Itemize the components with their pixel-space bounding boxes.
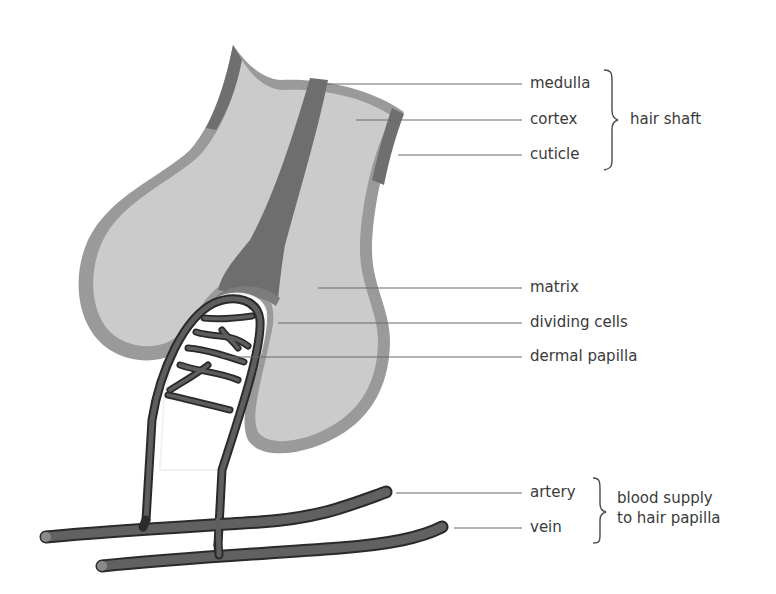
label-medulla: medulla <box>530 74 590 92</box>
blood-supply-brace <box>593 478 606 543</box>
label-blood-supply-line2: to hair papilla <box>617 509 721 527</box>
hair-shaft-brace <box>604 70 618 170</box>
label-vein: vein <box>530 518 562 536</box>
label-dermal-papilla: dermal papilla <box>530 347 637 365</box>
label-cuticle: cuticle <box>530 145 579 163</box>
blood-vessels <box>41 492 442 571</box>
label-dividing-cells: dividing cells <box>530 313 628 331</box>
label-blood-supply-line1: blood supply <box>617 489 713 507</box>
label-cortex: cortex <box>530 110 577 128</box>
label-hair-shaft: hair shaft <box>630 110 701 128</box>
label-artery: artery <box>530 483 576 501</box>
label-matrix: matrix <box>530 278 579 296</box>
